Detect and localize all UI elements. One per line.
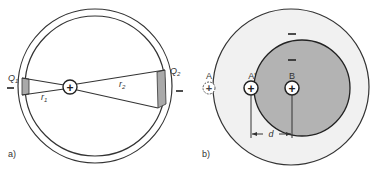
point-a-prime-sign: + bbox=[247, 82, 254, 96]
point-a-sign: + bbox=[206, 82, 212, 94]
center-charge-sign: + bbox=[66, 81, 73, 95]
label-point-b: B bbox=[289, 71, 295, 81]
label-q1: Q bbox=[8, 73, 15, 83]
inner-region-circle bbox=[254, 40, 350, 136]
figure-b: + A + A' + B d b) bbox=[202, 9, 369, 165]
label-r1-sub: 1 bbox=[44, 97, 47, 103]
diagram-canvas: + Q1 Q2 r1 r2 a) + A + A' + B d b bbox=[0, 0, 378, 169]
label-q2: Q bbox=[170, 66, 177, 76]
patch-q2 bbox=[157, 70, 166, 108]
label-point-a-prime: A' bbox=[248, 71, 256, 81]
panel-label-b: b) bbox=[202, 149, 210, 159]
point-b-sign: + bbox=[288, 82, 295, 96]
label-point-a: A bbox=[206, 71, 212, 81]
label-q1-sub: 1 bbox=[15, 78, 18, 84]
patch-q1 bbox=[22, 78, 29, 95]
figure-a: + Q1 Q2 r1 r2 a) bbox=[7, 9, 183, 163]
label-q2-sub: 2 bbox=[176, 71, 181, 77]
svg-text:Q2: Q2 bbox=[170, 66, 181, 77]
inner-shell-circle bbox=[25, 16, 165, 156]
svg-text:Q1: Q1 bbox=[8, 73, 18, 84]
panel-label-a: a) bbox=[8, 149, 16, 159]
label-r2-sub: 2 bbox=[121, 84, 126, 90]
